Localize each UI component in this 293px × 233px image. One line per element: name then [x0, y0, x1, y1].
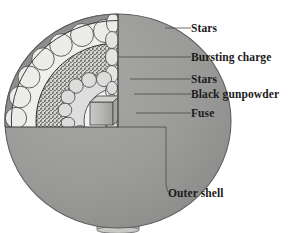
label-fuse: Fuse	[191, 107, 214, 119]
diagram-canvas: Stars Bursting charge Stars Black gunpow…	[0, 0, 293, 233]
label-black-gunpowder: Black gunpowder	[191, 88, 279, 101]
label-bursting-charge: Bursting charge	[191, 51, 271, 64]
star-pellet	[18, 66, 40, 88]
fuse-cylinder	[90, 96, 120, 125]
label-outer-shell: Outer shell	[168, 187, 224, 199]
inner-star-pellet	[58, 103, 72, 117]
label-stars-inner: Stars	[191, 73, 217, 85]
star-pellet	[5, 107, 26, 128]
label-stars-outer: Stars	[191, 22, 217, 34]
fuse-body	[90, 102, 113, 125]
star-pellet	[106, 32, 119, 49]
star-pellet	[106, 49, 119, 66]
firework-shell-diagram: Stars Bursting charge Stars Black gunpow…	[0, 0, 293, 233]
inner-star-pellet	[82, 73, 97, 88]
star-pellet	[32, 48, 54, 70]
inner-star-pellet	[107, 81, 118, 94]
star-pellet	[71, 24, 94, 47]
star-pellet	[50, 34, 73, 57]
inner-star-pellet	[61, 90, 75, 104]
